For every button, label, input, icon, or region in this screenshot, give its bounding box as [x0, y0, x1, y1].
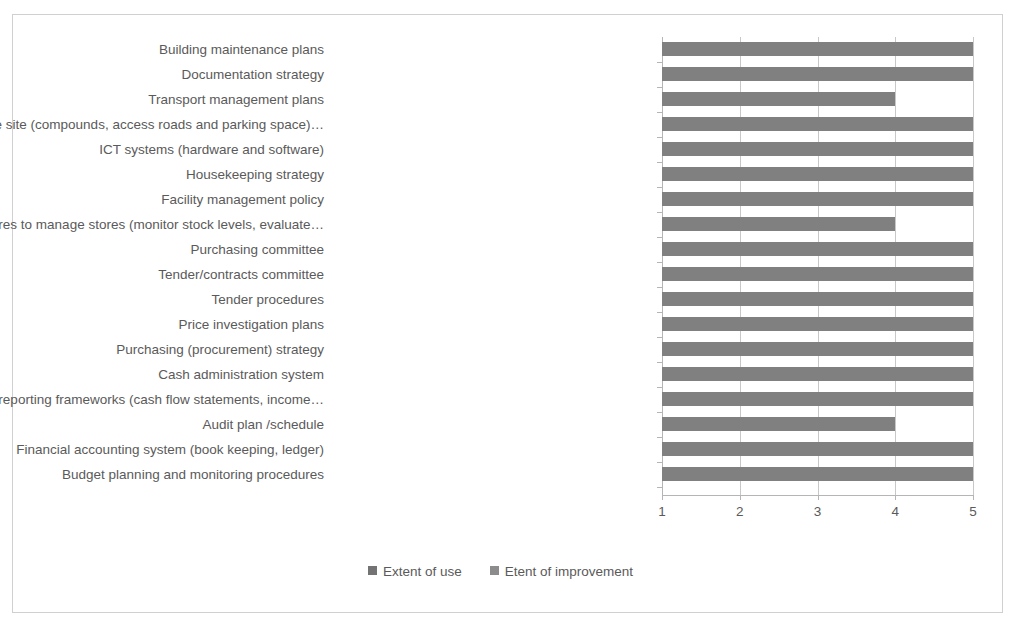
- category-tick: [657, 212, 662, 213]
- bar-track: [662, 462, 973, 487]
- bar: [662, 317, 973, 331]
- category-tick: [657, 62, 662, 63]
- category-label: Facility management policy: [161, 187, 324, 212]
- bar-track: [662, 362, 973, 387]
- category-tick: [657, 187, 662, 188]
- category-tick: [657, 362, 662, 363]
- bar-row: Procedures to manage stores (monitor sto…: [13, 212, 988, 237]
- bar: [662, 342, 973, 356]
- bar-track: [662, 87, 973, 112]
- bar-row: Financial accounting system (book keepin…: [13, 437, 988, 462]
- bar-row: Tender procedures: [13, 287, 988, 312]
- category-tick: [657, 112, 662, 113]
- bar-track: [662, 237, 973, 262]
- bar: [662, 92, 895, 106]
- bar-track: [662, 37, 973, 62]
- bar-rows: Building maintenance plansDocumentation …: [13, 37, 988, 487]
- bar-row: Price investigation plans: [13, 312, 988, 337]
- category-tick: [657, 437, 662, 438]
- category-label: Audit plan /schedule: [202, 412, 324, 437]
- category-tick: [657, 137, 662, 138]
- bar: [662, 192, 973, 206]
- category-label: Purchasing (procurement) strategy: [116, 337, 324, 362]
- category-tick: [657, 387, 662, 388]
- category-tick: [657, 337, 662, 338]
- axis-tick-mark: [740, 495, 741, 500]
- category-tick: [657, 237, 662, 238]
- category-tick: [657, 87, 662, 88]
- bar-track: [662, 212, 973, 237]
- bar-row: Office site (compounds, access roads and…: [13, 112, 988, 137]
- category-label: Tender/contracts committee: [158, 262, 324, 287]
- chart-legend: Extent of useEtent of improvement: [13, 563, 988, 579]
- category-label: Building maintenance plans: [159, 37, 324, 62]
- bar-track: [662, 112, 973, 137]
- bar: [662, 42, 973, 56]
- axis-tick-mark: [818, 495, 819, 500]
- legend-label: Extent of use: [383, 564, 462, 579]
- legend-label: Etent of improvement: [505, 564, 633, 579]
- bar-row: Housekeeping strategy: [13, 162, 988, 187]
- category-tick: [657, 262, 662, 263]
- axis-tick-mark: [895, 495, 896, 500]
- bar-row: Documentation strategy: [13, 62, 988, 87]
- bar-row: Facility management policy: [13, 187, 988, 212]
- category-label: Budget planning and monitoring procedure…: [62, 462, 324, 487]
- category-label: Price investigation plans: [178, 312, 324, 337]
- bar: [662, 392, 973, 406]
- category-tick: [657, 312, 662, 313]
- category-label: Documentation strategy: [181, 62, 324, 87]
- axis-tick-label: 4: [875, 504, 915, 519]
- category-tick: [657, 162, 662, 163]
- legend-item[interactable]: Extent of use: [368, 563, 462, 579]
- category-label: Tender procedures: [211, 287, 324, 312]
- bar-track: [662, 187, 973, 212]
- bar-track: [662, 337, 973, 362]
- bar-row: Cash administration system: [13, 362, 988, 387]
- category-tick: [657, 462, 662, 463]
- bar: [662, 242, 973, 256]
- bar: [662, 442, 973, 456]
- bar-track: [662, 262, 973, 287]
- bar-track: [662, 62, 973, 87]
- category-label: Cash administration system: [158, 362, 324, 387]
- bar: [662, 292, 973, 306]
- bar-row: Purchasing (procurement) strategy: [13, 337, 988, 362]
- category-tick: [657, 287, 662, 288]
- bar: [662, 142, 973, 156]
- bar: [662, 117, 973, 131]
- category-label: Transport management plans: [148, 87, 324, 112]
- bar-track: [662, 137, 973, 162]
- axis-tick-label: 5: [953, 504, 993, 519]
- axis-tick-mark: [662, 495, 663, 500]
- bar-row: Purchasing committee: [13, 237, 988, 262]
- legend-swatch-icon: [368, 566, 377, 575]
- bar-row: Tender/contracts committee: [13, 262, 988, 287]
- bar-row: Transport management plans: [13, 87, 988, 112]
- bar-track: [662, 437, 973, 462]
- bar-row: Financial reporting frameworks (cash flo…: [13, 387, 988, 412]
- chart-figure: Building maintenance plansDocumentation …: [12, 14, 1003, 613]
- bar: [662, 267, 973, 281]
- axis-tick-label: 3: [798, 504, 838, 519]
- bar-row: Building maintenance plans: [13, 37, 988, 62]
- axis-tick-label: 2: [720, 504, 760, 519]
- legend-item[interactable]: Etent of improvement: [490, 563, 633, 579]
- category-label: ICT systems (hardware and software): [99, 137, 324, 162]
- plot-area: Building maintenance plansDocumentation …: [13, 15, 1002, 612]
- axis-tick-mark: [973, 495, 974, 500]
- bar-row: Audit plan /schedule: [13, 412, 988, 437]
- bar: [662, 67, 973, 81]
- bar: [662, 367, 973, 381]
- bar: [662, 417, 895, 431]
- bar-track: [662, 312, 973, 337]
- axis-tick-label: 1: [642, 504, 682, 519]
- legend-swatch-icon: [490, 566, 499, 575]
- category-label: Office site (compounds, access roads and…: [0, 112, 324, 137]
- bar: [662, 167, 973, 181]
- bar-track: [662, 287, 973, 312]
- bar-track: [662, 387, 973, 412]
- bar-row: ICT systems (hardware and software): [13, 137, 988, 162]
- category-tick: [657, 487, 662, 488]
- category-label: Purchasing committee: [190, 237, 324, 262]
